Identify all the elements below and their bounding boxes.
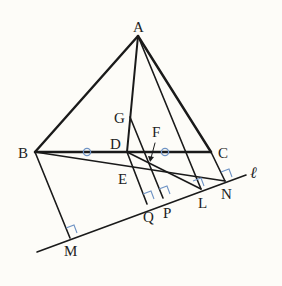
label-C: C [218,145,228,161]
geometry-diagram: A B C D G E F M Q P L N ℓ [0,0,282,286]
label-F: F [152,124,160,140]
label-Q: Q [143,209,154,225]
label-A: A [133,19,144,35]
label-M: M [64,243,77,259]
diagram-canvas: A B C D G E F M Q P L N ℓ [0,0,282,286]
label-N: N [221,186,232,202]
segment-BN [35,152,225,181]
arrowhead-F [148,156,154,162]
label-G: G [114,110,125,126]
label-line-l: ℓ [250,164,257,181]
label-E: E [118,171,127,187]
label-B: B [18,145,28,161]
segment-AL [138,36,201,189]
label-D: D [110,136,121,152]
segment-BM [35,152,70,238]
label-P: P [163,205,171,221]
arrow-F [151,143,155,158]
segment-AC [138,36,211,152]
segment-DL [127,152,201,189]
segment-AB [35,36,138,152]
label-L: L [198,195,207,211]
line-l [37,175,246,252]
